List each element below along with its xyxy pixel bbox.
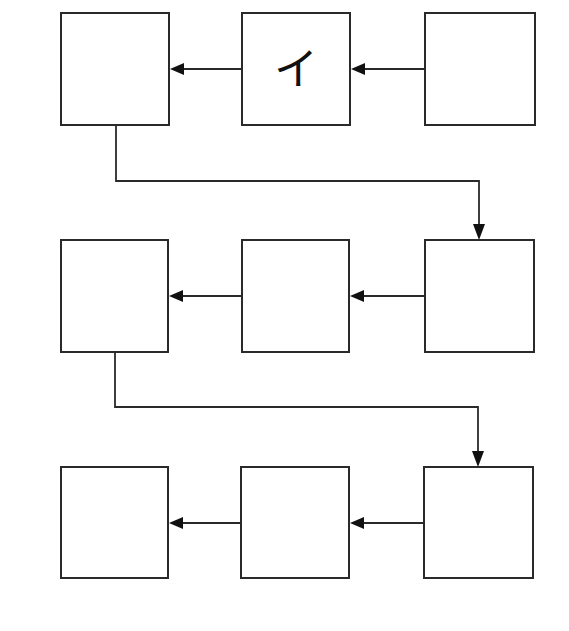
- arrowhead-down-icon: [472, 451, 484, 467]
- connector-r2c1-to-r3c3: [115, 352, 478, 455]
- box-r3c2: [241, 467, 349, 578]
- box-r1c1: [61, 13, 169, 125]
- arrowhead-down-icon: [473, 224, 485, 240]
- arrowhead-left-icon: [170, 63, 184, 75]
- box-r2c2: [242, 240, 349, 352]
- arrowhead-left-icon: [169, 290, 183, 302]
- box-r2c3: [425, 240, 534, 352]
- box-r1c3: [425, 13, 535, 125]
- box-label-r1c2: イ: [274, 44, 318, 95]
- box-r3c3: [424, 467, 533, 578]
- arrowhead-left-icon: [350, 290, 364, 302]
- arrowhead-left-icon: [169, 517, 183, 529]
- box-r2c1: [61, 240, 168, 352]
- connector-r1c1-to-r2c3: [116, 125, 479, 228]
- flow-diagram: イ: [0, 0, 569, 631]
- arrowhead-left-icon: [351, 63, 365, 75]
- arrowhead-left-icon: [350, 517, 364, 529]
- box-r3c1: [61, 467, 168, 578]
